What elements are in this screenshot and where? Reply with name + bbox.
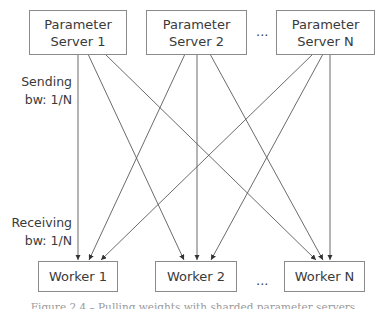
worker-1-label: Worker 1: [49, 268, 107, 285]
parameter-server-n-box: Parameter Server N: [276, 10, 375, 55]
sending-line1: Sending: [21, 73, 72, 91]
receiving-line1: Receiving: [11, 214, 72, 232]
server-1-line1: Parameter: [44, 16, 112, 33]
receiving-bandwidth-label: Receiving bw: 1/N: [11, 214, 72, 250]
figure-caption: Figure 2.4 – Pulling weights with sharde…: [0, 301, 386, 309]
server-2-line1: Parameter: [163, 16, 231, 33]
worker-2-box: Worker 2: [155, 261, 237, 292]
server-1-line2: Server 1: [50, 33, 105, 50]
worker-ellipsis: ...: [256, 273, 268, 288]
sending-line2: bw: 1/N: [21, 91, 72, 109]
worker-n-box: Worker N: [284, 261, 365, 292]
edge-psn-w1: [101, 54, 313, 260]
parameter-server-1-box: Parameter Server 1: [29, 10, 127, 55]
worker-2-label: Worker 2: [167, 268, 225, 285]
parameter-server-2-box: Parameter Server 2: [146, 10, 247, 55]
server-n-line1: Parameter: [292, 16, 360, 33]
server-ellipsis: ...: [256, 24, 268, 39]
server-2-line2: Server 2: [169, 33, 224, 50]
worker-n-label: Worker N: [295, 268, 355, 285]
receiving-line2: bw: 1/N: [11, 232, 72, 250]
edge-ps1-w2: [88, 54, 184, 260]
diagram-canvas: Parameter Server 1 Parameter Server 2 ..…: [0, 0, 386, 309]
server-n-line2: Server N: [297, 33, 354, 50]
sending-bandwidth-label: Sending bw: 1/N: [21, 73, 72, 109]
worker-1-box: Worker 1: [38, 261, 118, 292]
